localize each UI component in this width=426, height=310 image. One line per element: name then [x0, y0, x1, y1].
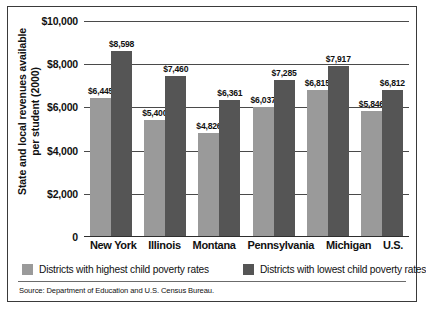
x-axis-line [84, 236, 409, 237]
bar-rect [90, 98, 111, 237]
y-axis-tick-label: $10,000 [41, 15, 78, 27]
bar-rect [328, 66, 349, 237]
bar-highest-poverty[interactable]: $6,037 [253, 21, 274, 237]
bar-lowest-poverty[interactable]: $6,812 [382, 21, 403, 237]
bar-highest-poverty[interactable]: $4,826 [198, 21, 219, 237]
y-axis-tick-label: 0 [72, 231, 78, 243]
bar-rect [144, 120, 165, 237]
bar-value-label: $5,400 [142, 108, 167, 118]
bar-value-label: $6,037 [251, 95, 276, 105]
bar-rect [219, 100, 240, 237]
bar-lowest-poverty[interactable]: $7,285 [274, 21, 295, 237]
bar-value-label: $6,812 [380, 78, 405, 88]
bar-value-label: $6,445 [88, 86, 113, 96]
chart-frame: State and local revenues available per s… [7, 6, 417, 302]
legend-item-lowest-poverty: Districts with lowest child poverty rate… [243, 264, 426, 275]
y-axis-tick-label: $2,000 [47, 188, 78, 200]
y-axis-tick-label: $8,000 [47, 58, 78, 70]
bar-rect [253, 107, 274, 237]
bar-group: $5,400$7,460 [144, 21, 186, 237]
bar-rect [198, 133, 219, 237]
plot-area: $10,000$8,000$6,000$4,000$2,0000 $6,445$… [84, 21, 409, 237]
bar-rect [111, 51, 132, 237]
bar-groups: $6,445$8,598$5,400$7,460$4,826$6,361$6,0… [84, 21, 409, 237]
bar-group: $4,826$6,361 [198, 21, 240, 237]
source-divider [18, 281, 406, 282]
bar-value-label: $7,285 [272, 68, 297, 78]
legend-swatch-icon-highest [22, 264, 33, 275]
y-axis-tick-label: $6,000 [47, 101, 78, 113]
bar-value-label: $8,598 [109, 39, 134, 49]
bar-lowest-poverty[interactable]: $6,361 [219, 21, 240, 237]
x-axis-tick-label: Illinois [148, 239, 180, 251]
x-axis-tick-label: Pennsylvania [247, 239, 314, 251]
bar-lowest-poverty[interactable]: $7,460 [165, 21, 186, 237]
x-axis-tick-label: U.S. [383, 239, 403, 251]
bar-value-label: $7,460 [163, 64, 188, 74]
chart-legend: Districts with highest child poverty rat… [8, 257, 416, 281]
x-axis-tick-label: Michigan [326, 239, 371, 251]
bar-value-label: $7,917 [326, 54, 351, 64]
bar-highest-poverty[interactable]: $5,400 [144, 21, 165, 237]
bar-rect [307, 90, 328, 237]
legend-label-highest: Districts with highest child poverty rat… [39, 264, 209, 275]
y-axis-label: State and local revenues available per s… [16, 24, 41, 200]
bar-highest-poverty[interactable]: $5,846 [361, 21, 382, 237]
bar-value-label: $6,361 [217, 88, 242, 98]
x-axis-tick-label: New York [90, 239, 137, 251]
legend-swatch-icon-lowest [243, 264, 254, 275]
bar-rect [165, 76, 186, 237]
bar-group: $5,846$6,812 [361, 21, 403, 237]
bar-highest-poverty[interactable]: $6,815 [307, 21, 328, 237]
y-axis-tick-label: $4,000 [47, 145, 78, 157]
x-axis-tick-label: Montana [193, 239, 236, 251]
source-note: Source: Department of Education and U.S.… [19, 286, 214, 295]
bar-group: $6,815$7,917 [307, 21, 349, 237]
bar-highest-poverty[interactable]: $6,445 [90, 21, 111, 237]
bar-group: $6,445$8,598 [90, 21, 132, 237]
bar-rect [274, 80, 295, 237]
bar-lowest-poverty[interactable]: $7,917 [328, 21, 349, 237]
bar-group: $6,037$7,285 [253, 21, 295, 237]
x-axis-labels: New YorkIllinoisMontanaPennsylvaniaMichi… [84, 239, 409, 251]
bar-value-label: $6,815 [305, 78, 330, 88]
bar-lowest-poverty[interactable]: $8,598 [111, 21, 132, 237]
bar-value-label: $4,826 [196, 121, 221, 131]
bar-rect [382, 90, 403, 237]
chart-region: State and local revenues available per s… [8, 7, 416, 255]
bar-rect [361, 111, 382, 237]
legend-label-lowest: Districts with lowest child poverty rate… [260, 264, 426, 275]
legend-item-highest-poverty: Districts with highest child poverty rat… [22, 264, 209, 275]
bar-value-label: $5,846 [359, 99, 384, 109]
